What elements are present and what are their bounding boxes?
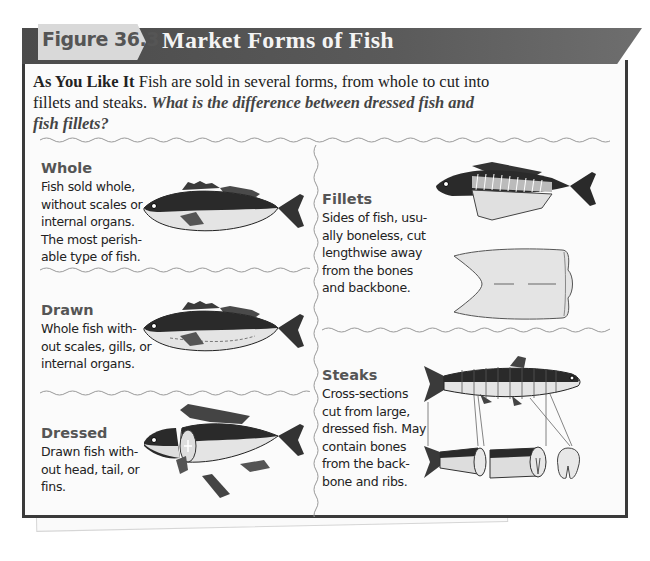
- body-line: able type of fish.: [41, 248, 142, 266]
- section-title-fillets: Fillets: [322, 191, 372, 207]
- section-body-drawn: Whole fish with- out scales, gills, or i…: [41, 320, 151, 373]
- figure-number: Figure 36.3: [42, 28, 159, 50]
- body-line: internal organs.: [41, 355, 151, 373]
- section-title-steaks: Steaks: [322, 367, 377, 383]
- body-line: contain bones: [322, 438, 426, 456]
- wave-divider-top: [40, 136, 610, 144]
- fillet-fish-illustration: [432, 160, 602, 240]
- wave-divider-drawn-dressed: [40, 389, 310, 397]
- caption-lead: As You Like It: [33, 72, 135, 91]
- section-title-whole: Whole: [41, 160, 92, 176]
- whole-fish-illustration: [140, 178, 308, 240]
- body-line: cut from large,: [322, 403, 426, 421]
- body-line: fins.: [41, 478, 139, 496]
- wave-divider-fillets-steaks: [322, 326, 610, 334]
- body-line: and backbone.: [322, 279, 427, 297]
- dressed-fish-illustration: [140, 402, 308, 502]
- body-line: Fish sold whole,: [41, 178, 142, 196]
- body-line: lengthwise away: [322, 244, 427, 262]
- section-body-steaks: Cross-sections cut from large, dressed f…: [322, 385, 426, 490]
- body-line: Cross-sections: [322, 385, 426, 403]
- section-body-whole: Fish sold whole, without scales or inter…: [41, 178, 142, 266]
- steak-fish-illustration: [422, 356, 602, 486]
- body-line: Drawn fish with-: [41, 443, 139, 461]
- section-body-fillets: Sides of fish, usu- ally boneless, cut l…: [322, 209, 427, 297]
- body-line: out scales, gills, or: [41, 338, 151, 356]
- section-body-dressed: Drawn fish with- out head, tail, or fins…: [41, 443, 139, 496]
- wave-divider-whole-drawn: [40, 266, 310, 274]
- section-title-drawn: Drawn: [41, 302, 94, 318]
- body-line: Sides of fish, usu-: [322, 209, 427, 227]
- body-line: internal organs.: [41, 213, 142, 231]
- body-line: dressed fish. May: [322, 420, 426, 438]
- body-line: from the bones: [322, 262, 427, 280]
- body-line: bone and ribs.: [322, 473, 426, 491]
- body-line: without scales or: [41, 196, 142, 214]
- body-line: ally boneless, cut: [322, 227, 427, 245]
- body-line: from the back-: [322, 455, 426, 473]
- caption: As You Like It Fish are sold in several …: [33, 71, 503, 134]
- figure-title: Market Forms of Fish: [162, 27, 394, 54]
- body-line: Whole fish with-: [41, 320, 151, 338]
- body-line: out head, tail, or: [41, 461, 139, 479]
- fillet-cut-illustration: [452, 246, 582, 322]
- section-title-dressed: Dressed: [41, 425, 108, 441]
- body-line: The most perish-: [41, 231, 142, 249]
- drawn-fish-illustration: [140, 298, 308, 360]
- wave-divider-vertical: [312, 145, 320, 517]
